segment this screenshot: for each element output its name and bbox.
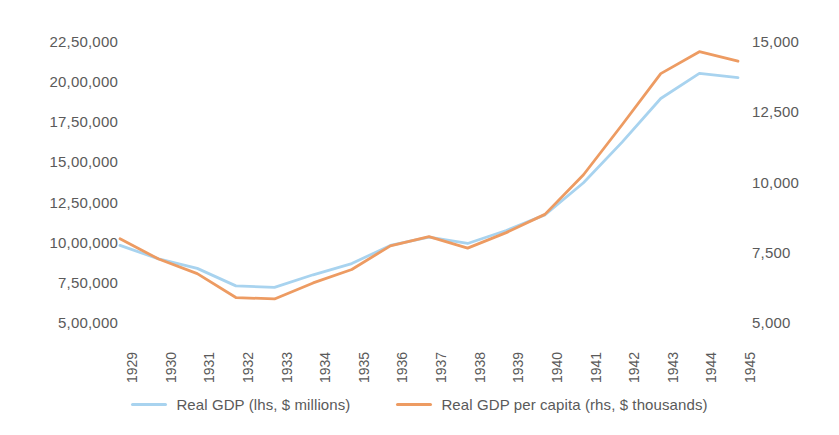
series-line bbox=[120, 73, 738, 287]
legend-swatch-icon bbox=[396, 403, 432, 406]
legend-item[interactable]: Real GDP per capita (rhs, $ thousands) bbox=[396, 396, 707, 413]
chart-legend: Real GDP (lhs, $ millions)Real GDP per c… bbox=[0, 390, 839, 418]
series-line bbox=[120, 52, 738, 299]
legend-label: Real GDP per capita (rhs, $ thousands) bbox=[441, 396, 707, 413]
plot-area bbox=[0, 0, 839, 435]
chart-container: 5,00,0007,50,00010,00,00012,50,00015,00,… bbox=[0, 0, 839, 435]
legend-label: Real GDP (lhs, $ millions) bbox=[176, 396, 350, 413]
legend-item[interactable]: Real GDP (lhs, $ millions) bbox=[131, 396, 350, 413]
legend-swatch-icon bbox=[131, 403, 167, 406]
